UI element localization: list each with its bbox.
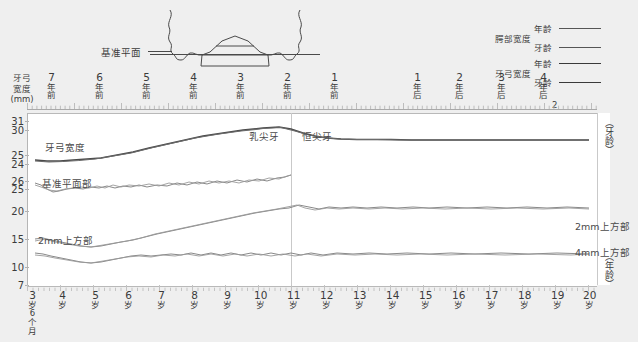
curve-label-2mm-upper-left: 2mm上方部: [38, 233, 93, 247]
y-tick-label: 10: [2, 262, 24, 273]
baseline-label: 基准平面: [101, 45, 141, 59]
curve-label-baseline-part: 基准平面部: [42, 176, 92, 190]
bottom-axis-tick: 20岁: [583, 290, 596, 309]
series-2mm-upper-age: [35, 205, 589, 247]
tick-unit-months2: 月: [28, 327, 37, 336]
bottom-axis-tick: 18岁: [518, 290, 531, 309]
figure-root: 基准平面 腭部宽度 年龄 牙龄 牙弓宽度 年龄: [0, 0, 638, 342]
bottom-axis-tick: 5岁: [91, 290, 100, 309]
series-4mm-upper-dental-age: [35, 254, 589, 263]
bottom-axis-tick: 13岁: [353, 290, 366, 309]
top-axis-tick: 5 年 前: [142, 72, 151, 100]
y-tick-label: 30: [2, 125, 24, 136]
tick-suffix: 后: [455, 91, 464, 100]
bottom-axis-tick: 8岁: [190, 290, 199, 309]
tick-suffix: 后: [539, 91, 548, 100]
legend-row: 牙龄: [534, 41, 601, 53]
top-axis-tick: 4 年 后: [539, 72, 548, 100]
top-axis-tick: 1 年 前: [330, 72, 339, 100]
top-axis-tick: 6 年 前: [95, 72, 104, 100]
bottom-axis-tick: 15岁: [419, 290, 432, 309]
tick-suffix: 后: [413, 91, 422, 100]
bottom-axis-tick: 11岁: [287, 290, 300, 309]
curve-label-2mm-upper-right: 2mm上方部: [575, 219, 630, 233]
bottom-axis: 3 岁 6 个 月 4岁 5岁 6岁 7岁 8岁 9岁 10岁 11岁 12岁 …: [0, 289, 638, 342]
legend-line-swatch: [559, 28, 601, 29]
tick-suffix: 前: [283, 91, 292, 100]
top-axis-tick: 1 年 后: [413, 72, 422, 100]
y-tick-label: 25: [2, 184, 24, 195]
bottom-axis-tick: 7岁: [157, 290, 166, 309]
top-axis-tick: 2 年 前: [283, 72, 292, 100]
legend-line-swatch: [559, 47, 601, 48]
y-tick-label: 20: [2, 206, 24, 217]
legend-item-label: 牙龄: [534, 41, 552, 53]
series-2mm-upper-dental-age: [35, 205, 589, 247]
bottom-axis-tick: 10岁: [254, 290, 267, 309]
curve-label-arch-width: 牙弓宽度: [45, 140, 85, 154]
legend-line-swatch: [559, 63, 601, 64]
y-tick-label: 24: [2, 159, 24, 170]
bottom-axis-tick: 12岁: [320, 290, 333, 309]
top-axis-tick: 4 年 前: [189, 72, 198, 100]
legend-group-palate: 腭部宽度 年龄 牙龄: [495, 22, 601, 53]
legend-row: 年龄: [534, 57, 601, 69]
tick-suffix: 前: [236, 91, 245, 100]
bottom-axis-tick: 6岁: [124, 290, 133, 309]
bottom-axis-tick: 17岁: [485, 290, 498, 309]
annotation-deciduous-canine: 乳尖牙: [249, 129, 279, 143]
right-label-dental-age: （牙龄）: [604, 118, 613, 154]
tick-suffix: 前: [47, 91, 56, 100]
legend-category-label: 腭部宽度: [495, 32, 531, 44]
legend-row: 年龄: [534, 22, 601, 34]
top-axis-tick: 2 年 后: [455, 72, 464, 100]
y-tick-label: 15: [2, 234, 24, 245]
y-axis: 31 30 25 24 26 25 20 15 10 7: [0, 110, 30, 290]
legend-item-label: 年龄: [534, 57, 552, 69]
tick-suffix: 后: [497, 91, 506, 100]
tick-suffix: 前: [95, 91, 104, 100]
top-axis-ticks: [27, 103, 597, 109]
bottom-axis-tick: 14岁: [386, 290, 399, 309]
tick-suffix: 前: [330, 91, 339, 100]
bottom-axis-tick: 4岁: [58, 290, 67, 309]
tick-suffix: 前: [189, 91, 198, 100]
bottom-axis-tick: 9岁: [223, 290, 232, 309]
legend-item-label: 年龄: [534, 22, 552, 34]
top-axis-tick: 3 年 前: [236, 72, 245, 100]
bottom-axis-tick: 3 岁 6 个 月: [28, 290, 37, 335]
baseline-leader-line: [148, 51, 172, 52]
curve-label-4mm-upper-right: 4mm上方部: [575, 245, 630, 259]
annotation-permanent-canine: 恒尖牙: [302, 129, 332, 143]
top-axis-tick: 3 年 后: [497, 72, 506, 100]
top-axis-tick: 7 年 前: [47, 72, 56, 100]
bottom-axis-tick: 19岁: [551, 290, 564, 309]
bottom-axis-tick: 16岁: [452, 290, 465, 309]
right-label-age: （年龄）: [604, 252, 613, 288]
palate-cross-section-illustration: [150, 8, 320, 74]
tick-suffix: 前: [142, 91, 151, 100]
